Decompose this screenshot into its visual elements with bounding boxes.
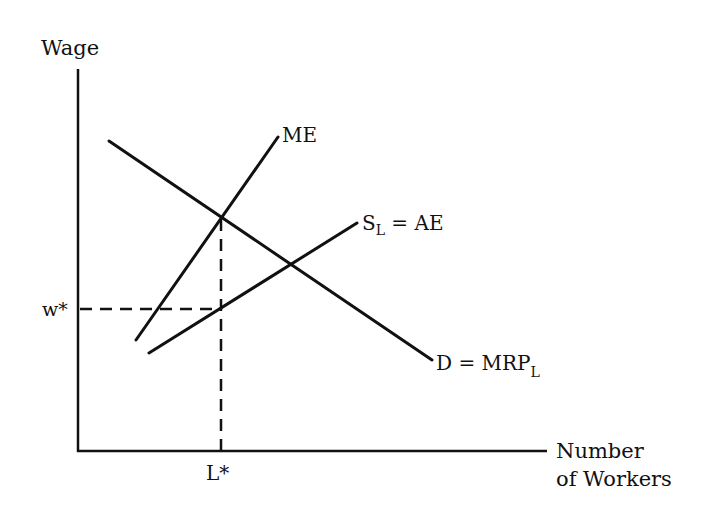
supply-label-sub: L (376, 222, 385, 238)
demand-curve-label: D = MRPL (436, 351, 540, 380)
demand-curve (109, 141, 432, 360)
monopsony-diagram: Wage Number of Workers ME SL = AE D = MR… (0, 0, 719, 520)
me-curve-label: ME (282, 123, 317, 147)
wage-marker-label: w* (42, 298, 68, 320)
quantity-marker-label: L* (206, 461, 229, 485)
demand-label-sub: L (531, 364, 540, 380)
supply-label-main: S (362, 211, 376, 235)
x-axis-label-line1: Number (556, 439, 645, 463)
y-axis-label: Wage (41, 36, 99, 60)
x-axis-label-line2: of Workers (556, 467, 672, 491)
demand-label-main: D = MRP (436, 351, 531, 375)
supply-label-rest: = AE (385, 211, 444, 235)
supply-curve-label: SL = AE (362, 211, 444, 238)
